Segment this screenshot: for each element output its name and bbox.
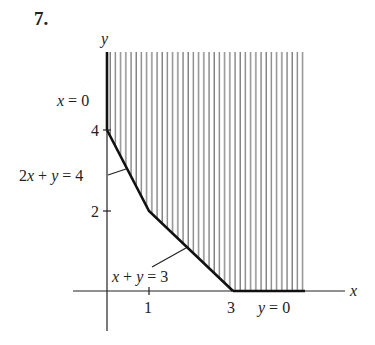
x-tick-label-1: 1	[144, 299, 152, 316]
x-tick-label-3: 3	[227, 299, 235, 316]
x-axis-label: x	[349, 282, 357, 299]
label-y-eq-0: y = 0	[256, 299, 290, 317]
y-tick-label-2: 2	[91, 203, 99, 220]
y-tick-label-4: 4	[91, 122, 99, 139]
y-axis-label: y	[99, 30, 109, 48]
feasible-region-hatching	[107, 52, 305, 292]
label-x-eq-0: x = 0	[56, 92, 89, 109]
leader-x-y-3	[152, 248, 186, 267]
label-2x-plus-y-eq-4: 2x + y = 4	[19, 167, 83, 185]
leader-2x-y-4	[108, 169, 126, 175]
label-x-plus-y-eq-3: x + y = 3	[111, 268, 168, 286]
feasible-region-diagram: y x 1 3 4 2 x = 0 2x + y = 4 x + y = 3 y…	[0, 0, 375, 345]
